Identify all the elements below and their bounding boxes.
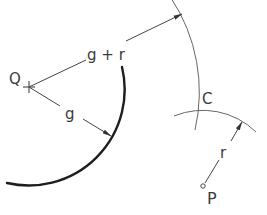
label-p: P <box>207 189 217 208</box>
arc-construction-diagram: Q g + r g C r P <box>0 0 267 215</box>
dimension-line-r <box>205 160 219 183</box>
label-g: g <box>65 105 75 123</box>
dimension-arrow-g <box>83 119 111 136</box>
label-c: C <box>202 90 212 108</box>
dimension-arrow-g-plus-r <box>126 14 182 41</box>
arc-radius-g <box>7 67 125 185</box>
label-g-plus-r: g + r <box>87 46 126 64</box>
arc-radius-r <box>174 110 256 132</box>
point-p-marker <box>201 184 205 188</box>
dimension-arrow-r <box>231 122 242 141</box>
dimension-line-g-plus-r <box>29 60 86 87</box>
dimension-line-g <box>29 87 60 106</box>
label-q: Q <box>9 70 21 88</box>
label-r: r <box>220 144 227 162</box>
